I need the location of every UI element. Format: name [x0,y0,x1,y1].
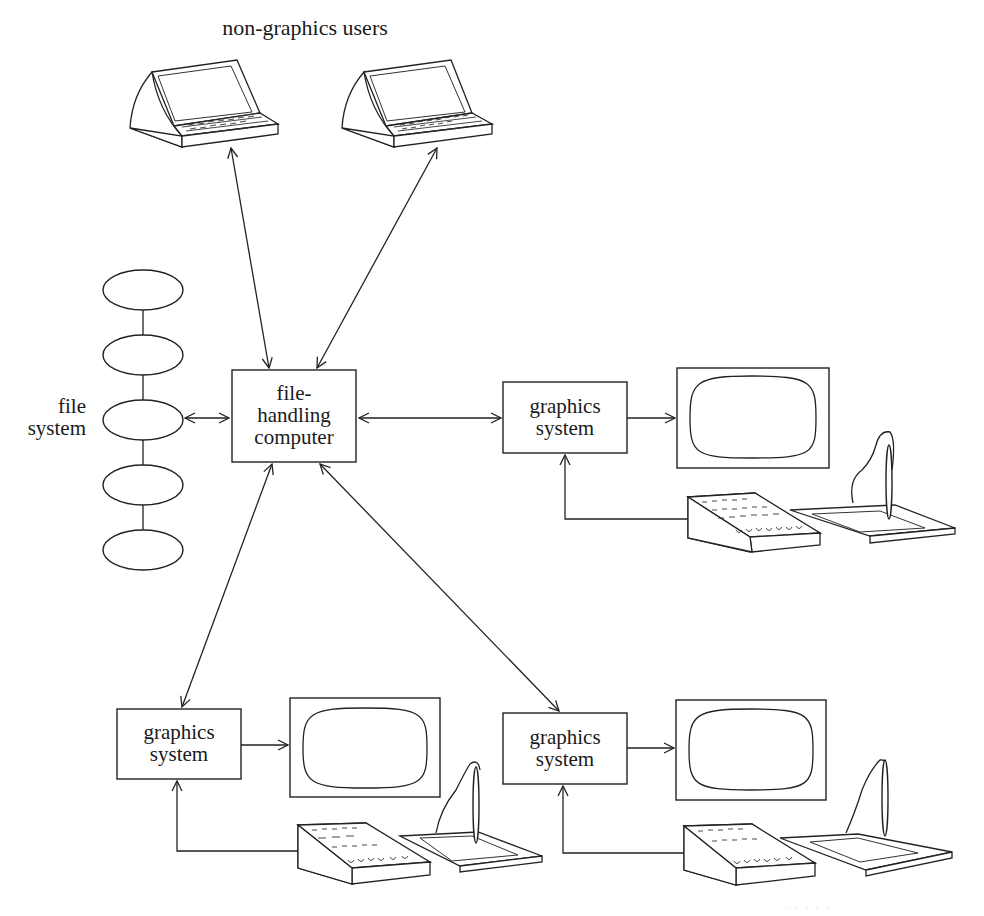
file-system-label: file system [20,395,86,439]
faint-caption: · · · · · [785,902,831,913]
network-diagram: non-graphics users file system file- han… [0,0,984,916]
disk-icon [103,270,183,310]
monitor-icon [677,368,829,468]
terminal-icon [342,60,492,147]
diagram-title: non-graphics users [205,16,405,39]
terminal-icon [130,60,278,147]
monitor-icon [290,698,440,797]
file-system-stack [103,270,183,570]
disk-icon [103,465,183,505]
disk-icon [103,530,183,570]
disk-icon [103,400,183,440]
disk-icon [103,335,183,375]
graphics-system-label-right: graphics system [503,395,627,439]
graphics-system-label-bottom-left: graphics system [117,721,241,765]
file-handling-computer-label: file- handling computer [232,382,356,448]
monitor-icon [676,700,826,800]
graphics-system-label-bottom-right: graphics system [503,726,627,770]
